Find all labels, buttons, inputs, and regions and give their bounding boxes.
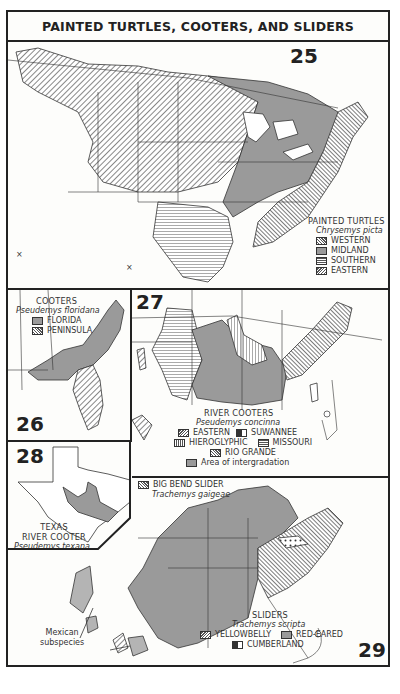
legend-species: Pseudemys floridana [16, 306, 100, 316]
legend-label: RED-EARED [296, 630, 343, 640]
eastern-swatch [178, 429, 189, 437]
legend-label: FLORIDA [47, 316, 81, 326]
intergradation-swatch [186, 459, 197, 467]
legend-item-southern: SOUTHERN [308, 256, 385, 266]
legend-label: WESTERN [331, 236, 371, 246]
plate-title: PAINTED TURTLES, COOTERS, AND SLIDERS [8, 12, 388, 42]
legend-label: PENINSULA [47, 326, 92, 336]
legend-label: BIG BEND SLIDER [153, 480, 224, 490]
peninsula-cooter-range [73, 365, 103, 430]
legend-item-western: WESTERN [308, 236, 385, 246]
legend-item-peninsula: PENINSULA [16, 326, 100, 336]
mexican-subspecies-note: Mexican subspecies [40, 628, 84, 648]
map-29-legend: SLIDERS Trachemys scripta YELLOWBELLY RE… [200, 610, 343, 650]
legend-item-cumberland: CUMBERLAND [200, 640, 343, 650]
legend-item-intergradation: Area of intergradation [174, 458, 312, 468]
suwannee-range [310, 383, 318, 402]
southern-swatch [316, 257, 327, 265]
map-27-panel: 27 RIVER COOTERS Pseudemys concinna EAST… [132, 290, 388, 478]
legend-label: RIO GRANDE [225, 448, 276, 458]
legend-label: EASTERN [193, 428, 230, 438]
hieroglyphic-swatch [174, 439, 185, 447]
legend-item-suwannee: SUWANNEE [236, 428, 297, 438]
legend-label: YELLOWBELLY [215, 630, 271, 640]
map-plate: PAINTED TURTLES, COOTERS, AND SLIDERS × [6, 10, 390, 667]
bigbend-swatch [138, 481, 149, 489]
legend-title: PAINTED TURTLES [308, 216, 385, 226]
eastern-cooter-range [282, 302, 352, 380]
legend-title: COOTERS [16, 296, 100, 306]
legend-label: EASTERN [331, 266, 368, 276]
legend-label: MISSOURI [273, 438, 313, 448]
legend-item-missouri: MISSOURI [258, 438, 313, 448]
legend-item-hieroglyphic: HIEROGLYPHIC [174, 438, 248, 448]
legend-item-bigbend: BIG BEND SLIDER [138, 480, 230, 490]
yellowbelly-swatch [200, 631, 211, 639]
legend-item-eastern: EASTERN [178, 428, 230, 438]
florida-swatch [32, 317, 43, 325]
legend-item-midland: MIDLAND [308, 246, 385, 256]
legend-species: Trachemys scripta [200, 620, 343, 630]
legend-title: SLIDERS [200, 610, 343, 620]
map-25-number: 25 [290, 44, 318, 68]
legend-item-florida: FLORIDA [16, 316, 100, 326]
legend-label: Area of intergradation [201, 458, 289, 468]
map-29-panel: BIG BEND SLIDER Trachemys gaigeae SLIDER… [8, 478, 388, 665]
legend-item-eastern: EASTERN [308, 266, 385, 276]
legend-species: Pseudemys concinna [174, 418, 312, 428]
red-eared-swatch [281, 631, 292, 639]
legend-label: SOUTHERN [331, 256, 376, 266]
legend-item-red-eared: RED-EARED [281, 630, 343, 640]
bigbend-legend: BIG BEND SLIDER Trachemys gaigeae [138, 480, 230, 500]
western-range [16, 48, 258, 192]
map-26-legend: COOTERS Pseudemys floridana FLORIDA PENI… [16, 296, 100, 336]
svg-text:×: × [16, 250, 23, 259]
western-swatch [316, 237, 327, 245]
rio-grande-swatch [210, 449, 221, 457]
map-26-panel: COOTERS Pseudemys floridana FLORIDA PENI… [8, 290, 132, 442]
missouri-swatch [258, 439, 269, 447]
map-25-panel: × × 25 PAINTED TURTLES Chrysemys picta W… [8, 42, 388, 290]
legend-label: CUMBERLAND [247, 640, 304, 650]
map-26-number: 26 [16, 412, 44, 436]
eastern-swatch [316, 267, 327, 275]
legend-label: HIEROGLYPHIC [189, 438, 248, 448]
svg-text:×: × [126, 263, 133, 272]
rio-grande-range [132, 348, 152, 440]
big-bend-slider-range [113, 633, 128, 653]
note-line2: subspecies [40, 638, 84, 648]
legend-item-rio-grande: RIO GRANDE [174, 448, 312, 458]
cumberland-swatch [232, 641, 243, 649]
legend-species: Chrysemys picta [308, 226, 385, 236]
note-line1: Mexican [40, 628, 84, 638]
map-27-number: 27 [136, 290, 164, 314]
map-29-number: 29 [358, 638, 386, 662]
legend-title: RIVER COOTERS [174, 408, 312, 418]
legend-label: SUWANNEE [251, 428, 297, 438]
map-27-legend: RIVER COOTERS Pseudemys concinna EASTERN… [174, 408, 312, 468]
map-25-legend: PAINTED TURTLES Chrysemys picta WESTERN … [308, 216, 385, 276]
legend-label: MIDLAND [331, 246, 369, 256]
legend-item-yellowbelly: YELLOWBELLY [200, 630, 271, 640]
suwannee-swatch [236, 429, 247, 437]
midland-swatch [316, 247, 327, 255]
peninsula-swatch [32, 327, 43, 335]
bigbend-species: Trachemys gaigeae [138, 490, 230, 500]
southern-range [153, 202, 233, 282]
